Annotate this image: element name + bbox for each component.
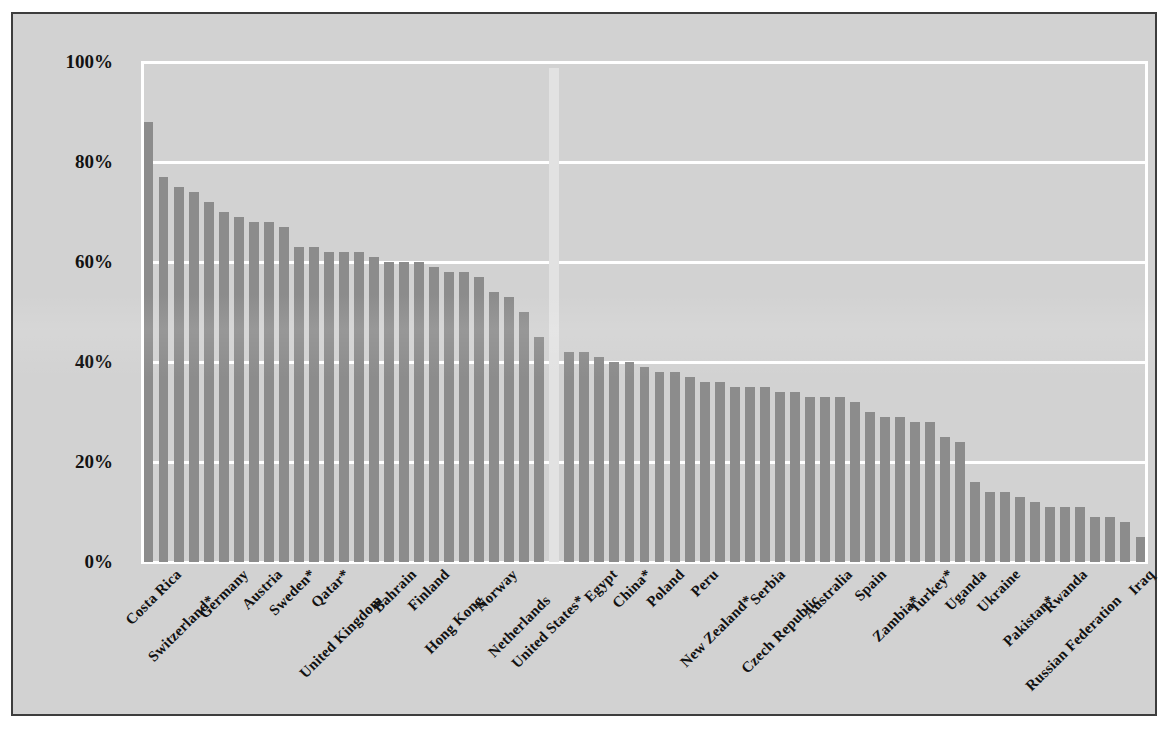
bar	[895, 417, 905, 562]
bar	[294, 247, 304, 562]
bar	[1105, 517, 1115, 562]
bar	[324, 252, 334, 562]
bar	[414, 262, 424, 562]
plot-area	[141, 62, 1148, 562]
x-tick-label: Spain	[851, 566, 890, 605]
bar	[1030, 502, 1040, 562]
bar-series	[141, 62, 1148, 562]
bar	[189, 192, 199, 562]
bar	[384, 262, 394, 562]
bar	[1060, 507, 1070, 562]
bar	[1120, 522, 1130, 562]
bar	[504, 297, 514, 562]
bar	[655, 372, 665, 562]
bar	[625, 362, 635, 562]
bar	[174, 187, 184, 562]
bar	[444, 272, 454, 562]
x-tick-label: Peru	[688, 566, 722, 600]
bar	[880, 417, 890, 562]
bar	[1045, 507, 1055, 562]
bar	[850, 402, 860, 562]
bar	[1136, 537, 1146, 562]
bar	[1000, 492, 1010, 562]
bar	[1075, 507, 1085, 562]
chart-page: Print Newspaper Reach 0%20%40%60%80%100%…	[0, 0, 1170, 739]
bar	[940, 437, 950, 562]
bar	[279, 227, 289, 562]
bar	[159, 177, 169, 562]
bar	[549, 68, 559, 562]
bar	[955, 442, 965, 562]
y-tick-label-20: 20%	[23, 452, 113, 471]
bar	[564, 352, 574, 562]
bar	[399, 262, 409, 562]
bar	[1015, 497, 1025, 562]
bar	[489, 292, 499, 562]
y-tick-label-100: 100%	[23, 52, 113, 71]
bar	[700, 382, 710, 562]
bar	[249, 222, 259, 562]
bar	[309, 247, 319, 562]
bar	[579, 352, 589, 562]
bar	[609, 362, 619, 562]
bar	[534, 337, 544, 562]
x-axis-labels: Costa RicaSwitzerland*GermanyAustriaSwed…	[141, 566, 1148, 716]
bar	[1090, 517, 1100, 562]
bar	[144, 122, 154, 562]
bar	[204, 202, 214, 562]
bar	[730, 387, 740, 562]
bar	[640, 367, 650, 562]
bar	[369, 257, 379, 562]
bar	[474, 277, 484, 562]
bar	[354, 252, 364, 562]
bar	[805, 397, 815, 562]
bar	[594, 357, 604, 562]
bar	[339, 252, 349, 562]
bar	[790, 392, 800, 562]
bar	[925, 422, 935, 562]
bar	[835, 397, 845, 562]
x-tick-label: Costa Rica	[122, 566, 185, 629]
x-tick-label: Norway	[472, 566, 521, 615]
x-tick-label: Iraq	[1126, 566, 1159, 599]
bar	[910, 422, 920, 562]
bar	[429, 267, 439, 562]
bar	[745, 387, 755, 562]
bar	[985, 492, 995, 562]
bar	[760, 387, 770, 562]
x-tick-label: Serbia	[747, 566, 789, 608]
y-tick-label-40: 40%	[23, 352, 113, 371]
bar	[234, 217, 244, 562]
bar	[820, 397, 830, 562]
bar	[970, 482, 980, 562]
bar	[219, 212, 229, 562]
chart-frame: Print Newspaper Reach 0%20%40%60%80%100%…	[11, 12, 1157, 716]
bar	[715, 382, 725, 562]
bar	[459, 272, 469, 562]
y-tick-label-80: 80%	[23, 152, 113, 171]
x-tick-label: Rwanda	[1041, 566, 1092, 617]
y-tick-label-60: 60%	[23, 252, 113, 271]
bar	[865, 412, 875, 562]
bar	[264, 222, 274, 562]
bar	[670, 372, 680, 562]
bar	[519, 312, 529, 562]
bar	[775, 392, 785, 562]
bar	[685, 377, 695, 562]
y-tick-label-0: 0%	[23, 552, 113, 571]
